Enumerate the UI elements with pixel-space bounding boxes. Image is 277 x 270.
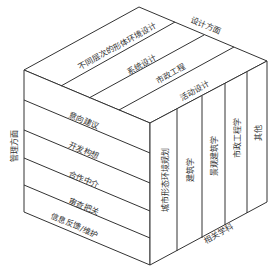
right-column-label: 市政工程学 [232,118,242,158]
axis-label-management: 管理方面 [9,130,19,162]
right-column-label: 城市形态环境规划 [160,148,170,212]
right-column-label: 建筑学 [185,158,195,182]
right-column-label: 景观建筑学 [209,136,219,176]
cube-diagram: 不同层次的形体环境设计 系统设计 市政工程 活动设计 设计方面 意向建议 开发构… [0,0,277,270]
right-column-label: 其他 [253,125,263,141]
